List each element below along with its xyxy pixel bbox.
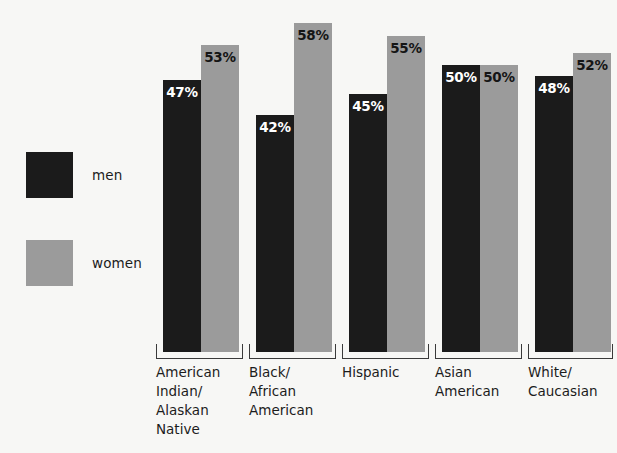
plot-area: 47% 53% American Indian/ Alaskan Native … [148,0,608,453]
bar-value-women: 53% [201,51,239,65]
group-bracket [342,344,429,359]
category-label: Black/ African American [249,363,337,443]
bar-value-men: 45% [349,100,387,114]
bar-pair: 45% 55% [334,0,426,352]
bar-group-hispanic: 45% 55% Hispanic [334,0,426,453]
bar-men: 50% [442,65,480,352]
bar-men: 42% [256,115,294,352]
bar-pair: 50% 50% [427,0,519,352]
bar-pair: 42% 58% [241,0,333,352]
group-bracket [435,344,522,359]
bar-women: 52% [573,53,611,352]
legend-label-men: men [92,167,122,183]
legend-label-women: women [92,255,142,271]
chart-legend: men women [26,152,146,328]
category-label: Hispanic [342,363,430,443]
bar-value-men: 50% [442,71,480,85]
bar-men: 47% [163,80,201,352]
legend-swatch-women [26,240,73,286]
group-bracket [528,344,613,359]
legend-swatch-men [26,152,73,198]
group-bracket [156,344,243,359]
bar-group-asian-american: 50% 50% Asian American [427,0,519,453]
category-label: White/ Caucasian [528,363,617,443]
bar-value-men: 48% [535,82,573,96]
bar-value-men: 47% [163,86,201,100]
legend-item-women: women [26,240,146,286]
group-bracket [249,344,336,359]
bar-value-men: 42% [256,121,294,135]
bar-women: 53% [201,45,239,352]
bar-value-women: 50% [480,71,518,85]
bar-value-women: 58% [294,29,332,43]
bar-men: 48% [535,76,573,352]
bar-women: 58% [294,23,332,352]
bar-women: 50% [480,65,518,352]
bar-men: 45% [349,94,387,352]
bar-pair: 47% 53% [148,0,240,352]
bar-group-american-indian-alaskan-native: 47% 53% American Indian/ Alaskan Native [148,0,240,453]
bar-group-black-african-american: 42% 58% Black/ African American [241,0,333,453]
category-label: Asian American [435,363,523,443]
bar-women: 55% [387,36,425,352]
legend-item-men: men [26,152,146,198]
category-label: American Indian/ Alaskan Native [156,363,244,443]
bar-value-women: 52% [573,59,611,73]
bar-pair: 48% 52% [520,0,612,352]
bar-group-white-caucasian: 48% 52% White/ Caucasian [520,0,612,453]
bar-value-women: 55% [387,42,425,56]
